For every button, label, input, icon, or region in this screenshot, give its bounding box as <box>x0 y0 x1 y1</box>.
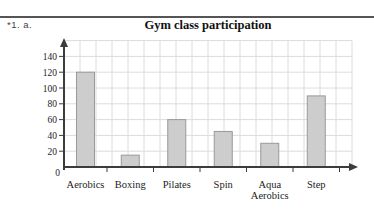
y-tick-label: 140 <box>43 52 58 62</box>
bar-aerobics <box>77 72 95 167</box>
category-label-pilates: Pilates <box>163 179 191 190</box>
category-label-aqua-aerobics: Aerobics <box>251 190 289 201</box>
bar-chart-svg: 020406080100120140AerobicsBoxingPilatesS… <box>0 0 374 210</box>
category-label-aqua-aerobics: Aqua <box>258 179 281 190</box>
y-tick-label: 80 <box>48 99 58 109</box>
category-label-spin: Spin <box>214 179 234 190</box>
bar-spin <box>214 131 232 167</box>
category-label-boxing: Boxing <box>115 179 147 190</box>
y-tick-label: 100 <box>43 84 58 94</box>
y-tick-label: 40 <box>48 131 58 141</box>
y-tick-labels: 020406080100120140 <box>43 52 61 178</box>
y-tick-label: 0 <box>55 168 60 178</box>
bar-pilates <box>168 120 186 167</box>
category-label-aerobics: Aerobics <box>67 179 105 190</box>
category-labels: AerobicsBoxingPilatesSpinAquaAerobicsSte… <box>67 179 326 201</box>
bar-step <box>307 96 325 167</box>
y-tick-label: 120 <box>43 68 58 78</box>
category-label-step: Step <box>307 179 326 190</box>
y-axis-arrow-icon <box>60 38 68 47</box>
bar-boxing <box>121 155 139 167</box>
y-tick-label: 60 <box>48 115 58 125</box>
x-axis-arrow-icon <box>349 163 358 171</box>
bar-aqua-aerobics <box>261 143 279 167</box>
y-tick-label: 20 <box>48 147 58 157</box>
